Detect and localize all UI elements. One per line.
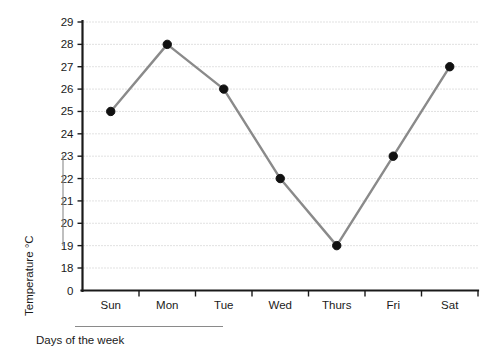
x-axis-title: Days of the week xyxy=(36,334,124,346)
x-tick-label: Tue xyxy=(214,299,233,311)
y-tick-label: 25 xyxy=(61,105,74,117)
y-tick-label: 27 xyxy=(61,61,74,73)
y-axis-title: Temperature °C xyxy=(23,235,35,316)
data-point xyxy=(276,174,284,182)
y-tick-label: 18 xyxy=(61,262,74,274)
x-tick-label: Thurs xyxy=(322,299,352,311)
y-tick-label: 24 xyxy=(61,128,74,140)
x-tick-label: Mon xyxy=(156,299,178,311)
chart-background xyxy=(0,0,503,361)
line-chart-figure: 2928272625242322212019180 SunMonTueWedTh… xyxy=(0,0,503,361)
y-tick-label: 26 xyxy=(61,83,74,95)
y-tick-label: 0 xyxy=(67,285,73,297)
chart-canvas: 2928272625242322212019180 SunMonTueWedTh… xyxy=(0,0,503,361)
data-point xyxy=(333,241,341,249)
y-tick-label: 28 xyxy=(61,38,74,50)
data-point xyxy=(220,85,228,93)
x-tick-label: Wed xyxy=(269,299,292,311)
x-tick-label: Fri xyxy=(387,299,400,311)
y-tick-label: 29 xyxy=(61,16,74,28)
x-tick-label: Sun xyxy=(101,299,121,311)
data-point xyxy=(163,40,171,48)
data-point xyxy=(107,107,115,115)
x-tick-label: Sat xyxy=(441,299,459,311)
data-point xyxy=(446,63,454,71)
data-point xyxy=(389,152,397,160)
